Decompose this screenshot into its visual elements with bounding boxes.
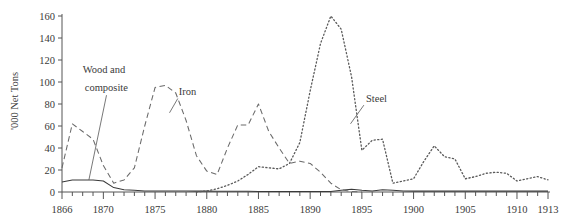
chart-canvas: 0204060801001201401601866187018751880188… <box>0 0 569 224</box>
chart-figure: 0204060801001201401601866187018751880188… <box>0 0 569 224</box>
series-annotation-iron: Iron <box>179 86 197 97</box>
series-annotation-wood-and: Wood and <box>83 64 126 75</box>
y-tick-label: 60 <box>45 121 56 132</box>
y-tick-label: 0 <box>50 187 55 198</box>
series-annotation-steel: Steel <box>366 93 387 104</box>
series-annotation-composite: composite <box>85 82 128 93</box>
y-tick-label: 140 <box>39 33 55 44</box>
y-tick-label: 100 <box>39 77 55 88</box>
x-tick-label: 1913 <box>538 204 559 215</box>
leader-line-iron <box>170 99 178 113</box>
y-tick-label: 40 <box>45 143 56 154</box>
series-line-iron <box>62 85 362 192</box>
x-tick-label: 1895 <box>351 204 372 215</box>
y-axis-title: '000 Net Tons <box>9 72 20 130</box>
series-line-wood-and-composite <box>62 180 548 192</box>
x-tick-label: 1900 <box>403 204 424 215</box>
x-tick-label: 1875 <box>145 204 166 215</box>
y-tick-label: 160 <box>39 11 55 22</box>
y-tick-label: 80 <box>45 99 56 110</box>
x-tick-label: 1910 <box>506 204 527 215</box>
x-tick-label: 1880 <box>196 204 217 215</box>
series-line-steel <box>196 16 548 192</box>
x-tick-label: 1870 <box>93 204 114 215</box>
x-tick-label: 1866 <box>52 204 73 215</box>
x-tick-label: 1885 <box>248 204 269 215</box>
y-tick-label: 120 <box>39 55 55 66</box>
x-tick-label: 1905 <box>455 204 476 215</box>
y-tick-label: 20 <box>45 165 56 176</box>
x-tick-label: 1890 <box>300 204 321 215</box>
